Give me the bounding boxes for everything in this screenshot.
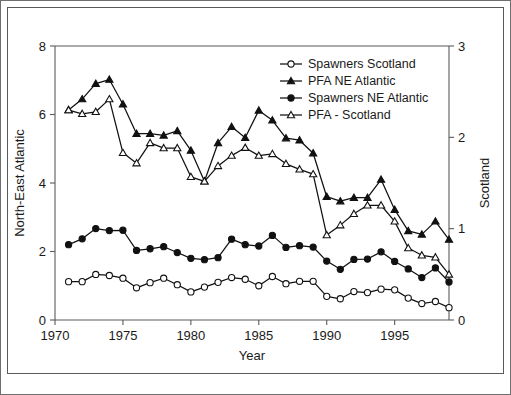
data-point [120,227,126,233]
y-tick-label-left: 8 [39,39,46,54]
data-point [147,280,153,286]
data-point [93,271,99,277]
data-point [350,210,357,216]
series-line [69,229,449,282]
data-point [215,255,221,261]
y-tick-label-right: 1 [458,221,465,236]
legend-item-pfa-ne-atlantic: PFA NE Atlantic [280,74,396,88]
data-point [378,249,384,255]
data-point [323,231,330,237]
data-point [405,227,412,233]
data-point [174,127,181,133]
y-tick-label-left: 6 [39,107,46,122]
data-point [405,295,411,301]
data-point [147,139,154,145]
data-point [120,275,126,281]
data-point [310,244,316,250]
line-chart: 02468 0123 197019751980198519901995 Nort… [8,8,503,373]
data-point [310,278,316,284]
y-axis-right-title: Scotland [477,158,492,209]
series-pfa-scotland [65,95,453,277]
legend-item-pfa-scotland: PFA - Scotland [280,108,391,122]
x-axis-ticks: 197019751980198519901995 [41,320,410,343]
data-point [256,283,262,289]
data-point [324,258,330,264]
data-point [432,265,438,271]
data-point [133,247,139,253]
data-point [324,293,330,299]
legend-marker-open-circle-icon [288,61,294,67]
data-point [269,150,276,156]
data-point [378,286,384,292]
data-point [174,249,180,255]
data-point [106,228,112,234]
x-tick-label: 1985 [244,328,273,343]
data-point [269,273,275,279]
y-tick-label-left: 2 [39,244,46,259]
data-point [323,193,330,199]
data-point [364,290,370,296]
data-point [242,144,249,150]
y-tick-label-left: 4 [39,176,46,191]
data-point [242,242,248,248]
data-point [405,266,411,272]
data-point [377,176,384,182]
legend-item-spawners-scotland: Spawners Scotland [280,57,416,71]
data-point [215,279,221,285]
data-point [65,242,71,248]
x-tick-label: 1995 [380,328,409,343]
data-point [269,232,275,238]
data-point [351,288,357,294]
data-point [79,279,85,285]
data-point [119,101,126,107]
x-tick-label: 1975 [108,328,137,343]
data-point [228,123,235,129]
data-point [337,296,343,302]
data-point [188,255,194,261]
data-point [229,236,235,242]
data-point [147,246,153,252]
data-point [174,282,180,288]
x-tick-label: 1990 [312,328,341,343]
x-tick-label: 1970 [41,328,70,343]
legend-label: Spawners Scotland [308,57,416,71]
series-spawners-scotland [65,271,452,310]
data-point [283,244,289,250]
data-point [79,236,85,242]
data-point [296,278,302,284]
data-point [432,298,438,304]
data-point [364,256,370,262]
data-point [282,160,289,166]
data-point [201,284,207,290]
legend-label: PFA - Scotland [308,108,391,122]
data-point [256,243,262,249]
data-point [446,279,452,285]
data-point [419,300,425,306]
data-point [161,244,167,250]
data-point [255,107,262,113]
y-axis-left-title: North-East Atlantic [12,129,27,237]
chart-legend: Spawners ScotlandPFA NE AtlanticSpawners… [280,57,428,122]
data-point [106,95,113,101]
data-point [106,76,113,82]
y-axis-left-ticks: 02468 [39,39,55,328]
data-point [93,225,99,231]
y-tick-label-right: 0 [458,313,465,328]
legend-item-spawners-ne-atlantic: Spawners NE Atlantic [280,91,428,105]
x-axis-title: Year [239,348,266,363]
y-tick-label-right: 3 [458,39,465,54]
data-point [161,275,167,281]
series-layer [65,76,453,311]
data-point [188,289,194,295]
data-point [283,281,289,287]
data-point [405,244,412,250]
data-point [419,274,425,280]
figure-frame: 02468 0123 197019751980198519901995 Nort… [7,7,504,374]
data-point [337,266,343,272]
legend-marker-filled-circle-icon [288,95,294,101]
data-point [392,258,398,264]
data-point [229,274,235,280]
data-point [201,257,207,263]
data-point [392,287,398,293]
data-point [296,243,302,249]
